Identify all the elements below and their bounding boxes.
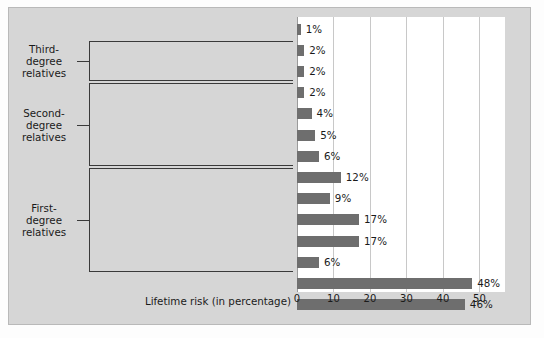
bar [297,236,359,247]
value-label: 2% [304,40,325,61]
value-label: 5% [315,125,336,146]
x-tick-50: 50 [473,293,486,304]
value-label: 2% [304,82,325,103]
bar [297,278,472,289]
bar-row: Uncles/aunts2% [0,82,544,103]
x-tick-30: 30 [400,293,413,304]
bar-row: Spouses of patients2% [0,40,544,61]
bar [297,108,312,119]
value-label: 6% [319,252,340,273]
bar [297,193,330,204]
bar-row: General population1% [0,19,544,40]
bar-row: Siblings (with schizophrenic parent)17% [0,209,544,230]
bar [297,151,319,162]
bar-row: Half-siblings6% [0,146,544,167]
value-label: 6% [319,146,340,167]
x-tick-0: 0 [294,293,300,304]
bar-row: Parents6% [0,252,544,273]
value-label: 9% [330,188,351,209]
bar [297,172,341,183]
value-label: 12% [341,167,369,188]
bar [297,45,304,56]
x-tick-40: 40 [437,293,450,304]
bar [297,87,304,98]
x-axis: 01020304050 [297,292,505,312]
bar [297,130,315,141]
value-label: 4% [312,103,333,124]
bar-row: Siblings9% [0,188,544,209]
x-tick-10: 10 [327,293,340,304]
bar-row: Dizygotic twins17% [0,231,544,252]
bar [297,214,359,225]
value-label: 17% [359,209,387,230]
x-tick-20: 20 [364,293,377,304]
value-label: 1% [301,19,322,40]
x-axis-title: Lifetime risk (in percentage) [145,292,291,312]
bar [297,257,319,268]
value-label: 17% [359,231,387,252]
bar-row: Grandchildren5% [0,125,544,146]
bar-row: Nephews/nieces4% [0,103,544,124]
bar [297,66,304,77]
bar-row: Children12% [0,167,544,188]
bar-row: First cousins2% [0,61,544,82]
value-label: 2% [304,61,325,82]
chart-figure: Third-degreerelativesSecond-degreerelati… [0,0,544,338]
bar-row: Monozygotic twins48% [0,273,544,294]
value-label: 48% [472,273,500,294]
